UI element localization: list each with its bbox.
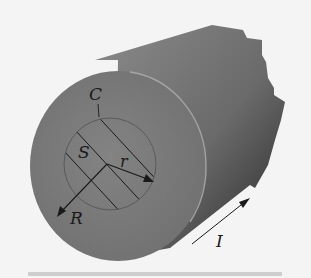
label-C: C: [89, 84, 102, 104]
current-I-arrowhead: [239, 198, 250, 208]
label-R: R: [69, 208, 83, 228]
label-r: r: [120, 152, 129, 171]
cylinder-front-face: [30, 71, 206, 261]
label-I: I: [215, 231, 223, 251]
cylinder-diagram: C S r R I: [0, 0, 311, 278]
caption-bar: [28, 272, 282, 276]
label-S: S: [78, 142, 90, 162]
